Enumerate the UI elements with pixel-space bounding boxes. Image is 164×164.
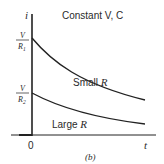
- figure-title: Constant V, C: [62, 10, 123, 21]
- svg-text:V: V: [20, 31, 26, 40]
- rc-discharge-diagram: i Constant V, C V R1 V R2 Small R Large …: [0, 0, 164, 164]
- large-r-label: Large R: [52, 118, 87, 130]
- y-tick-v-over-r2: V R2: [16, 84, 29, 105]
- x-axis-label: t: [144, 139, 148, 151]
- small-r-curve: [32, 38, 145, 100]
- origin-label: 0: [28, 140, 34, 151]
- small-r-label: Small R: [73, 76, 108, 88]
- svg-text:R2: R2: [17, 95, 26, 105]
- large-r-curve: [32, 93, 145, 124]
- y-axis-label: i: [25, 9, 28, 21]
- y-tick-v-over-r1: V R1: [16, 31, 29, 52]
- figure-caption: (b): [85, 152, 96, 162]
- svg-text:V: V: [20, 84, 26, 93]
- svg-text:R1: R1: [17, 42, 26, 52]
